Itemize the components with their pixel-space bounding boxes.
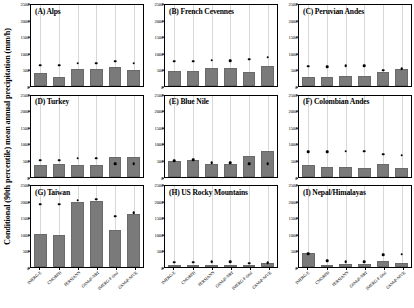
panel-g: 05001000150020002500(G) TaiwanIMERG-ECMO… [14, 185, 144, 304]
bar-series [31, 96, 143, 177]
bar-series [299, 96, 411, 177]
bar-slot [106, 5, 125, 86]
bar-series [165, 96, 277, 177]
bar [127, 214, 140, 267]
reference-marker [248, 262, 251, 265]
panel-f: 05001000150020002500(F) Colombian Andes [282, 95, 412, 186]
reference-marker [39, 159, 42, 162]
bar [109, 67, 122, 86]
bar [187, 160, 200, 177]
bar-slot [106, 96, 125, 177]
bar-slot [124, 186, 143, 267]
x-axis-ticks: IMERG-ECMORPHPERSIANNGSMaP-NRTIMERG-F-fi… [164, 268, 278, 304]
bar [358, 76, 371, 86]
reference-marker [114, 215, 117, 218]
bar [339, 264, 352, 267]
panel-c: 05001000150020002500(C) Peruvian Andes [282, 4, 412, 95]
bar [71, 202, 84, 267]
reference-marker [173, 160, 176, 163]
bar [53, 235, 66, 267]
bar [395, 263, 408, 267]
reference-marker [363, 261, 366, 264]
bar-slot [374, 96, 393, 177]
bar [377, 261, 390, 267]
reference-marker [382, 69, 385, 72]
bar-slot [221, 96, 240, 177]
bar-slot [31, 96, 50, 177]
reference-marker [192, 261, 195, 264]
bar-slot [184, 186, 203, 267]
x-tick-mark [39, 268, 40, 270]
reference-marker [76, 157, 79, 160]
bar-series [299, 5, 411, 86]
x-axis-ticks [164, 178, 278, 182]
x-tick-mark [173, 268, 174, 270]
bar [168, 71, 181, 86]
bar [71, 69, 84, 86]
bar-slot [184, 5, 203, 86]
bar-slot [165, 5, 184, 86]
reference-marker [229, 59, 232, 62]
figure-panel-grid: Conditional (90th percentile) mean annua… [0, 0, 414, 308]
reference-marker [363, 150, 366, 153]
plot-area: (D) Turkey [30, 95, 144, 178]
bar-series [165, 186, 277, 267]
bar [377, 164, 390, 177]
bar-series [31, 186, 143, 267]
bar-slot [124, 96, 143, 177]
x-tick-label: PERSIANN [330, 270, 348, 287]
reference-marker [39, 203, 42, 206]
bar-slot [240, 186, 259, 267]
x-axis-ticks [30, 87, 144, 91]
bar-slot [240, 5, 259, 86]
bar-slot [165, 96, 184, 177]
bar-slot [106, 186, 125, 267]
bar [53, 77, 66, 86]
plot-area: (F) Colombian Andes [298, 95, 412, 178]
bar-slot [355, 186, 374, 267]
reference-marker [307, 253, 310, 256]
bar-slot [68, 186, 87, 267]
reference-marker [229, 162, 232, 165]
x-tick-label: PERSIANN [196, 270, 214, 287]
bar-slot [221, 5, 240, 86]
panel-e: 05001000150020002500(E) Blue Nile [148, 95, 278, 186]
reference-marker [326, 151, 329, 154]
y-axis-ticks: 05001000150020002500 [14, 95, 30, 178]
reference-marker [58, 203, 61, 206]
y-axis-ticks: 05001000150020002500 [14, 4, 30, 87]
bar [168, 265, 181, 267]
bar-series [31, 5, 143, 86]
bar-slot [202, 186, 221, 267]
x-axis-ticks [164, 87, 278, 91]
plot-area: (I) Nepal/Himalayas [298, 185, 412, 268]
bar [224, 68, 237, 86]
y-axis-ticks: 05001000150020002500 [14, 185, 30, 268]
x-tick-label: CMORPH [45, 270, 61, 285]
bar-slot [124, 5, 143, 86]
panel-title: (A) Alps [35, 7, 61, 16]
reference-marker [192, 60, 195, 63]
bar-slot [221, 186, 240, 267]
bar-slot [318, 186, 337, 267]
bar-slot [318, 5, 337, 86]
panel-title: (G) Taiwan [35, 188, 70, 197]
bar [358, 168, 371, 176]
panel-title: (H) US Rocky Mountains [169, 188, 248, 197]
bar [358, 264, 371, 267]
y-axis-title: Conditional (90th percentile) mean annua… [0, 0, 14, 272]
reference-marker [400, 154, 403, 157]
bar-slot [87, 186, 106, 267]
reference-marker [114, 163, 117, 166]
bar [302, 165, 315, 177]
x-tick-label: CMORPH [179, 270, 195, 285]
x-axis-ticks: IMERG-ECMORPHPERSIANNGSMaP-NRTIMERG-F-fi… [30, 268, 144, 304]
reference-marker [39, 64, 42, 67]
bar [53, 164, 66, 177]
bar-slot [299, 5, 318, 86]
bar-series [299, 186, 411, 267]
bar [321, 265, 334, 267]
bar [127, 70, 140, 86]
bar-slot [68, 96, 87, 177]
bar [205, 164, 218, 177]
